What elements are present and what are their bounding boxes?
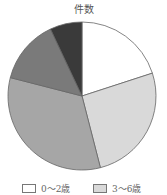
legend: 0～2歳 3～6歳 bbox=[0, 182, 167, 195]
legend-item-0: 0～2歳 bbox=[22, 182, 70, 195]
legend-swatch-1 bbox=[93, 184, 107, 193]
pie-slices bbox=[8, 22, 156, 170]
legend-label-1: 3～6歳 bbox=[112, 182, 141, 195]
legend-item-1: 3～6歳 bbox=[93, 182, 141, 195]
legend-label-0: 0～2歳 bbox=[41, 182, 70, 195]
pie-chart bbox=[0, 0, 167, 180]
legend-swatch-0 bbox=[22, 184, 36, 193]
